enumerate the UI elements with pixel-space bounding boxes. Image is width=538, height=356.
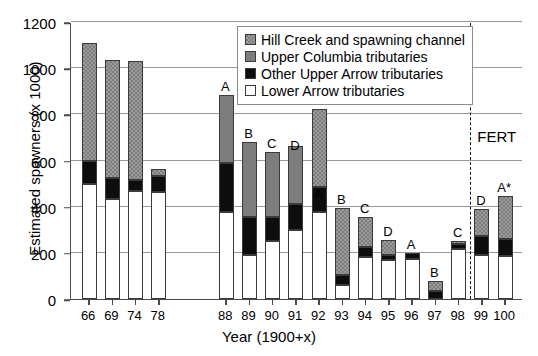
legend-label: Other Upper Arrow tributaries [261,66,443,82]
bar-segment [128,61,143,180]
bar-segment [335,285,350,299]
bar-note-99: D [476,193,485,208]
x-tick-mark-90 [272,299,274,305]
x-tick-label-88: 88 [218,308,232,323]
x-tick-label-100: 100 [493,308,515,323]
bar-93[interactable] [335,208,350,299]
bar-segment [335,208,350,275]
bar-100[interactable] [498,196,513,299]
bar-96[interactable] [405,253,420,299]
bar-segment [381,240,396,255]
bar-segment [128,180,143,190]
x-tick-mark-95 [388,299,390,305]
x-tick-mark-69 [112,299,114,305]
x-tick-label-90: 90 [264,308,278,323]
x-tick-mark-97 [435,299,437,305]
bar-segment [451,249,466,299]
bar-note-96: A [407,237,416,252]
x-tick-label-93: 93 [334,308,348,323]
bar-66[interactable] [82,43,97,299]
bar-segment [219,163,234,213]
bar-segment [288,204,303,229]
black-swatch [245,68,256,79]
y-tick-label-0: 0 [0,292,56,309]
gridline-1200 [71,21,522,22]
x-tick-mark-92 [318,299,320,305]
bar-segment [498,256,513,299]
bar-88[interactable] [219,95,234,299]
bar-segment [474,255,489,299]
bar-90[interactable] [265,152,280,299]
x-tick-label-97: 97 [427,308,441,323]
legend-item[interactable]: Lower Arrow tributaries [245,82,465,99]
bar-segment [358,247,373,257]
legend-item[interactable]: Hill Creek and spawning channel [245,31,465,48]
x-tick-mark-78 [158,299,160,305]
bar-segment [335,275,350,285]
bar-segment [498,196,513,239]
bar-74[interactable] [128,61,143,299]
bar-note-89: B [244,126,253,141]
bar-91[interactable] [288,154,303,299]
bar-69[interactable] [105,60,120,299]
legend-label: Lower Arrow tributaries [261,83,404,99]
bar-segment [381,260,396,299]
bar-segment [474,209,489,236]
bar-segment [312,109,327,187]
x-tick-label-91: 91 [288,308,302,323]
legend-label: Upper Columbia tributaries [261,49,428,65]
bar-segment [288,146,303,205]
bar-94[interactable] [358,217,373,299]
bar-segment [82,161,97,184]
bar-78[interactable] [151,169,166,299]
bar-segment [105,199,120,299]
bar-note-94: C [360,201,369,216]
bar-segment [288,230,303,299]
bar-segment [358,217,373,247]
bar-segment [105,178,120,199]
bar-segment [219,95,234,163]
fert-label: FERT [477,128,516,145]
x-tick-mark-91 [295,299,297,305]
x-tick-label-99: 99 [474,308,488,323]
bar-95[interactable] [381,240,396,299]
x-tick-label-66: 66 [81,308,95,323]
x-tick-mark-96 [411,299,413,305]
bar-segment [242,142,257,217]
bar-note-88: A [221,79,230,94]
bar-segment [451,241,466,243]
bar-segment [381,255,396,260]
bar-99[interactable] [474,209,489,299]
bar-segment [265,217,280,241]
bar-segment [498,239,513,256]
bar-segment [428,281,443,291]
bar-89[interactable] [242,142,257,299]
legend-item[interactable]: Upper Columbia tributaries [245,48,465,65]
x-axis-title: Year (1900+x) [0,328,538,345]
bar-segment [312,212,327,299]
x-tick-mark-88 [225,299,227,305]
x-tick-mark-93 [342,299,344,305]
legend: Hill Creek and spawning channelUpper Col… [237,26,473,105]
bar-note-98: C [453,225,462,240]
bar-note-93: B [337,192,346,207]
white-swatch [245,85,256,96]
x-tick-mark-74 [135,299,137,305]
bar-segment [265,241,280,299]
spawners-bar-chart: Estimated spawners (x 1000) 020040060080… [0,0,538,356]
bar-segment [151,169,166,176]
x-tick-label-89: 89 [241,308,255,323]
x-tick-label-92: 92 [311,308,325,323]
bar-97[interactable] [428,281,443,299]
bar-segment [82,184,97,299]
bar-98[interactable] [451,241,466,299]
x-tick-mark-99 [481,299,483,305]
legend-label: Hill Creek and spawning channel [261,32,465,48]
x-tick-label-78: 78 [151,308,165,323]
bar-segment [82,43,97,161]
bar-92[interactable] [312,203,327,299]
legend-item[interactable]: Other Upper Arrow tributaries [245,65,465,82]
x-tick-label-94: 94 [357,308,371,323]
bar-segment [405,259,420,299]
bar-segment [242,217,257,255]
